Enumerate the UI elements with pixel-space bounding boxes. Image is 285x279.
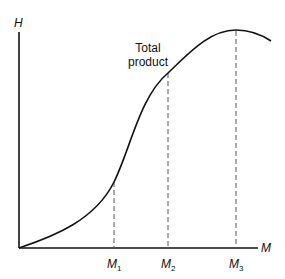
curve-label: Total product <box>118 41 178 69</box>
curve-label-line2: product <box>118 55 178 69</box>
tick-m2: M2 <box>161 258 175 273</box>
curve-label-line1: Total <box>118 41 178 55</box>
tick-m3: M3 <box>229 258 243 273</box>
y-axis-label: H <box>14 17 23 29</box>
x-axis-label: M <box>261 242 271 254</box>
tick-m1: M1 <box>107 258 121 273</box>
